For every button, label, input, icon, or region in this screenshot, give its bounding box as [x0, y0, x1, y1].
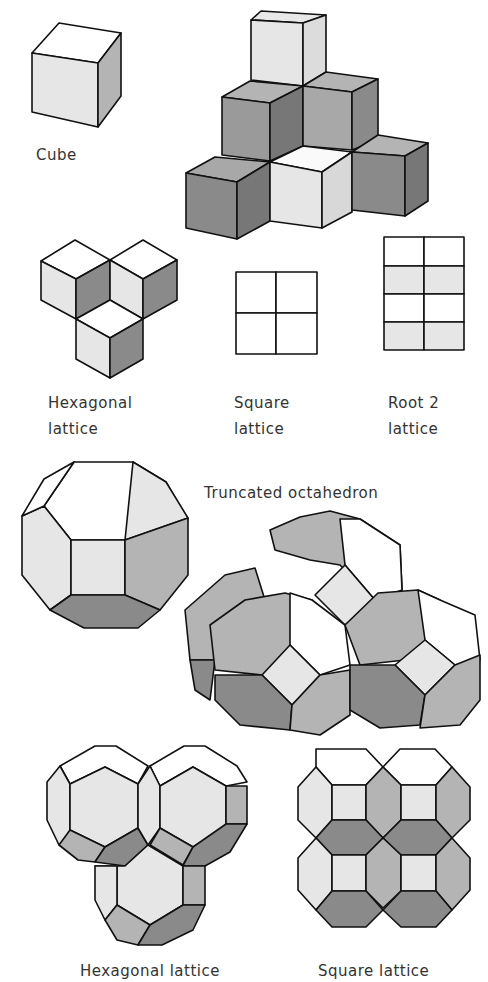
hex-lattice-label-line2: lattice: [48, 416, 132, 442]
to-square-lattice-label: Square lattice: [318, 958, 429, 982]
to-hex-lattice-figure: [47, 746, 247, 945]
to-square-lattice-figure: [298, 749, 470, 927]
square-lattice-figure: [236, 272, 317, 354]
root2-lattice-figure: [384, 237, 464, 350]
root2-lattice-label-line1: Root 2: [388, 390, 439, 416]
root2-lattice-label: Root 2 lattice: [388, 390, 439, 442]
square-lattice-label-line1: Square: [234, 390, 290, 416]
cube-figure: [32, 23, 121, 127]
hex-lattice-label: Hexagonal lattice: [48, 390, 132, 442]
square-lattice-label: Square lattice: [234, 390, 290, 442]
root2-lattice-label-line2: lattice: [388, 416, 439, 442]
cube-stack-figure: [186, 11, 428, 239]
truncated-octahedron-label: Truncated octahedron: [204, 480, 378, 506]
truncated-octahedron-cluster-figure: [185, 511, 480, 735]
to-hex-lattice-label: Hexagonal lattice: [80, 958, 220, 982]
cube-label: Cube: [36, 142, 77, 168]
truncated-octahedron-figure: [22, 462, 188, 628]
square-lattice-label-line2: lattice: [234, 416, 290, 442]
hex-lattice-figure: [41, 240, 177, 378]
hex-lattice-label-line1: Hexagonal: [48, 390, 132, 416]
